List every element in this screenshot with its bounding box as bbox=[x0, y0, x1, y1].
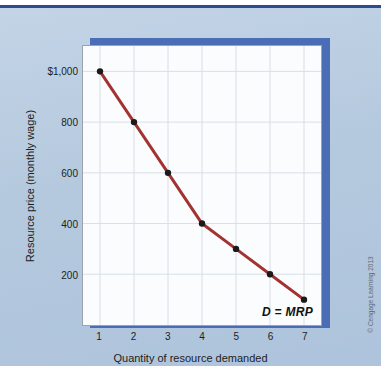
y-axis-tick-label: 800 bbox=[61, 116, 78, 127]
plot-area: D = MRP bbox=[82, 45, 322, 326]
x-axis-tick-label: 1 bbox=[96, 331, 102, 342]
chart-data-layer bbox=[83, 46, 321, 325]
x-axis-tick-label: 3 bbox=[165, 331, 171, 342]
y-axis-tick-label: 200 bbox=[61, 269, 78, 280]
data-point-marker bbox=[97, 68, 103, 74]
data-point-marker bbox=[233, 246, 239, 252]
data-point-marker bbox=[267, 271, 273, 277]
y-axis-tick-label: 400 bbox=[61, 218, 78, 229]
x-axis-tick-label: 7 bbox=[302, 331, 308, 342]
x-axis-title: Quantity of resource demanded bbox=[0, 352, 381, 364]
figure-container: D = MRP 200400600800$1,000 1234567 Quant… bbox=[0, 0, 381, 379]
curve-label-d-mrp: D = MRP bbox=[262, 305, 313, 319]
data-point-marker bbox=[165, 170, 171, 176]
x-axis-tick-label: 4 bbox=[199, 331, 205, 342]
figure-panel: D = MRP 200400600800$1,000 1234567 Quant… bbox=[0, 8, 381, 366]
y-axis-tick-label: 600 bbox=[61, 167, 78, 178]
x-axis-tick-label: 2 bbox=[131, 331, 137, 342]
y-axis-tick-label: $1,000 bbox=[47, 65, 78, 76]
x-axis-tick-label: 5 bbox=[234, 331, 240, 342]
data-point-marker bbox=[131, 119, 137, 125]
x-axis-tick-label: 6 bbox=[268, 331, 274, 342]
x-axis-tick-labels: 1234567 bbox=[82, 331, 322, 347]
data-point-marker bbox=[199, 220, 205, 226]
copyright-notice: © Cengage Learning 2013 bbox=[367, 235, 374, 355]
y-axis-title: Resource price (monthly wage) bbox=[24, 51, 36, 321]
data-point-marker bbox=[301, 296, 307, 302]
vertical-gridlines bbox=[100, 46, 304, 325]
